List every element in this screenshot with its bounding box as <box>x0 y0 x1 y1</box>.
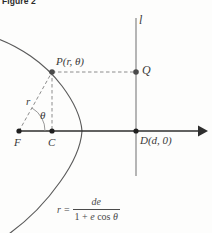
point-P-label: P(r, θ) <box>56 56 84 67</box>
polar-conic-equation: r = de 1 + e cos θ <box>57 196 120 222</box>
figure-container: Figure 2 P(r, θ) Q l F C D(d, 0) r θ r = <box>0 0 212 233</box>
denominator-theta: θ <box>113 211 118 222</box>
denominator-eccentricity: e <box>90 211 94 222</box>
point-D-label: D(d, 0) <box>140 135 172 146</box>
equation-fraction: de 1 + e cos θ <box>73 196 120 222</box>
equation-lhs: r <box>57 204 61 215</box>
denominator-one: 1 <box>75 211 80 222</box>
point-Q-dot <box>133 69 139 75</box>
radius-dashed-line <box>19 72 52 131</box>
radius-label: r <box>26 96 30 107</box>
point-P-dot <box>49 69 55 75</box>
denominator-plus-sign: + <box>82 211 88 222</box>
point-D-dot <box>133 128 138 133</box>
directrix-line-label: l <box>139 14 142 26</box>
equation-denominator: 1 + e cos θ <box>73 210 120 223</box>
axis-arrowhead <box>198 126 208 137</box>
equation-numerator: de <box>86 196 107 209</box>
point-Q-label: Q <box>142 64 151 76</box>
equation-equals-sign: = <box>64 204 70 215</box>
denominator-cos: cos <box>97 211 110 222</box>
angle-theta-label: θ <box>40 110 45 121</box>
point-C-label: C <box>48 137 55 148</box>
point-C-dot <box>49 128 54 133</box>
point-F-label: F <box>14 137 21 148</box>
point-F-dot <box>16 128 21 133</box>
